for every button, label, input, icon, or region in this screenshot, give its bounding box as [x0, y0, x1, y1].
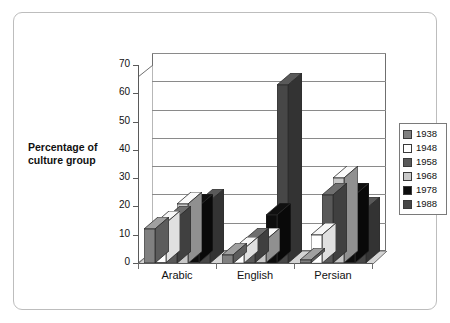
bar-shape: [144, 217, 169, 263]
bar-arabic-1938: [144, 217, 169, 263]
bar-shape: [300, 248, 325, 263]
y-axis-tick-label: 20: [104, 199, 130, 210]
chart-legend: 193819481958196819781988: [399, 123, 447, 215]
gridline: [152, 138, 386, 139]
plot-area: 010203040506070 ArabicEnglishPersian: [14, 13, 450, 323]
legend-item-label: 1958: [416, 157, 437, 167]
legend-item-label: 1938: [416, 129, 437, 139]
gridline: [152, 53, 386, 54]
x-axis-tick-mark: [294, 263, 295, 269]
y-axis-tick-label: 60: [104, 86, 130, 97]
x-axis-category-label: English: [216, 269, 294, 281]
bar-persian-1938: [300, 248, 325, 263]
x-axis-line: [138, 263, 372, 264]
legend-item-label: 1978: [416, 185, 437, 195]
y-axis-tick-label: 50: [104, 115, 130, 126]
x-axis-tick-mark: [372, 263, 373, 269]
legend-swatch-icon: [403, 200, 412, 209]
y-axis-tick-mark: [133, 150, 138, 151]
x-axis-category-label: Arabic: [138, 269, 216, 281]
y-axis-tick-mark: [133, 65, 138, 66]
legend-item-1968[interactable]: 1968: [403, 169, 443, 183]
y-axis-tick-label: 70: [104, 58, 130, 69]
legend-item-1958[interactable]: 1958: [403, 155, 443, 169]
y-axis-tick-mark: [133, 178, 138, 179]
legend-item-1938[interactable]: 1938: [403, 127, 443, 141]
y-axis-tick-mark: [133, 206, 138, 207]
legend-swatch-icon: [403, 158, 412, 167]
legend-item-label: 1988: [416, 199, 437, 209]
legend-swatch-icon: [403, 186, 412, 195]
legend-item-label: 1948: [416, 143, 437, 153]
legend-item-label: 1968: [416, 171, 437, 181]
x-axis-tick-mark: [138, 263, 139, 269]
x-axis-category-label: Persian: [294, 269, 372, 281]
bar-shape: [222, 243, 247, 263]
gridline: [152, 110, 386, 111]
y-axis-tick-label: 0: [104, 256, 130, 267]
y-axis-tick-label: 40: [104, 143, 130, 154]
y-axis-tick-mark: [133, 122, 138, 123]
y-axis-tick-mark: [133, 93, 138, 94]
legend-item-1978[interactable]: 1978: [403, 183, 443, 197]
legend-swatch-icon: [403, 130, 412, 139]
legend-item-1948[interactable]: 1948: [403, 141, 443, 155]
bar-english-1938: [222, 243, 247, 263]
legend-swatch-icon: [403, 144, 412, 153]
gridline: [152, 81, 386, 82]
chart-frame: Percentage of culture group 010203040506…: [13, 12, 437, 310]
y-axis-line: [138, 65, 139, 264]
x-axis-tick-mark: [216, 263, 217, 269]
y-axis-tick-label: 10: [104, 228, 130, 239]
y-axis-tick-label: 30: [104, 171, 130, 182]
legend-swatch-icon: [403, 172, 412, 181]
legend-item-1988[interactable]: 1988: [403, 197, 443, 211]
y-axis-tick-mark: [133, 235, 138, 236]
